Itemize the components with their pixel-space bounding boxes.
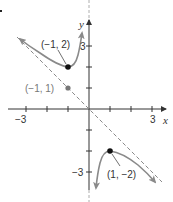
point-1-neg2 bbox=[107, 148, 113, 154]
point-label-neg1-2: (−1, 2) bbox=[41, 39, 70, 50]
figure-marker bbox=[0, 10, 2, 12]
graph: (−1, 2) (−1, 1) (1, −2) −3 3 3 −3 x y bbox=[0, 0, 173, 202]
point-neg1-1 bbox=[65, 85, 70, 90]
point-neg1-2 bbox=[65, 64, 71, 70]
x-tick-label-neg3: −3 bbox=[15, 114, 27, 125]
x-tick-label-3: 3 bbox=[150, 114, 156, 125]
point-label-1-neg2: (1, −2) bbox=[107, 169, 136, 180]
leader-line-a bbox=[58, 50, 66, 64]
leader-line-c bbox=[112, 154, 120, 166]
point-label-neg1-1: (−1, 1) bbox=[25, 83, 54, 94]
y-tick-label-3: 3 bbox=[80, 41, 86, 52]
y-tick-label-neg3: −3 bbox=[72, 167, 84, 178]
x-axis-label: x bbox=[162, 114, 168, 126]
y-axis-label: y bbox=[78, 18, 84, 30]
